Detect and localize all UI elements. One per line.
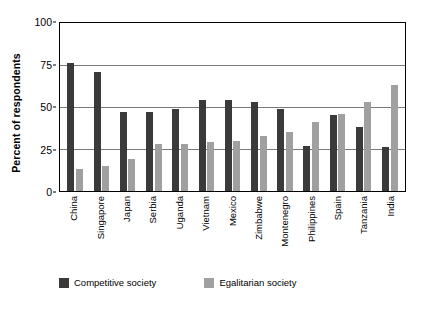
bar <box>172 109 179 191</box>
bar <box>225 100 232 191</box>
y-axis-tick-label: 0 <box>46 187 52 197</box>
bar-group <box>351 23 377 191</box>
x-axis-tick-label-text: Montenegro <box>280 196 290 247</box>
bar <box>364 102 371 191</box>
bar <box>102 166 109 191</box>
x-axis-tick-label: Japan <box>114 192 140 254</box>
legend-item[interactable]: Competitive society <box>59 277 156 288</box>
x-axis-tick-label-text: India <box>386 196 396 217</box>
bar <box>67 63 74 191</box>
x-axis-tick-label-text: Tanzania <box>359 196 369 234</box>
y-axis-title: Percent of respondents <box>8 28 24 198</box>
x-axis-tick-label: India <box>378 192 404 254</box>
x-axis-tick-label: Philippines <box>299 192 325 254</box>
x-axis-tick-label: Tanzania <box>351 192 377 254</box>
x-axis-tick-label: Serbia <box>140 192 166 254</box>
x-axis-tick-label: Vietnam <box>193 192 219 254</box>
x-axis-tick-label-text: Philippines <box>307 196 317 242</box>
bar <box>382 147 389 191</box>
x-axis-tick-label: Uganda <box>167 192 193 254</box>
x-axis-tick-label-text: Serbia <box>148 196 158 223</box>
bar <box>181 144 188 191</box>
x-axis-tick-label-text: Singapore <box>96 196 106 239</box>
y-axis-tick-label: 50 <box>40 102 52 112</box>
bar-group <box>193 23 219 191</box>
bar-group <box>246 23 272 191</box>
x-axis-tick-label-text: Japan <box>122 196 132 222</box>
bar <box>120 112 127 191</box>
x-axis-tick-label: China <box>61 192 87 254</box>
chart-legend: Competitive societyEgalitarian society <box>59 277 406 288</box>
bar <box>312 122 319 191</box>
bar <box>155 144 162 191</box>
bar-group <box>167 23 193 191</box>
bar-chart-figure: Percent of respondents 0255075100 ChinaS… <box>0 0 428 317</box>
bar <box>356 127 363 191</box>
y-axis-tick-mark <box>53 64 56 65</box>
bar <box>330 115 337 191</box>
bar-group <box>324 23 350 191</box>
bar <box>94 72 101 191</box>
y-axis-tick-label: 100 <box>34 17 52 27</box>
y-axis-tick-label: 25 <box>40 145 52 155</box>
y-axis-tick-mark <box>53 107 56 108</box>
bar <box>128 159 135 191</box>
bar <box>251 102 258 191</box>
bar-group <box>114 23 140 191</box>
bar <box>233 141 240 191</box>
bar-group <box>377 23 403 191</box>
y-axis-title-text: Percent of respondents <box>10 53 22 172</box>
legend-item[interactable]: Egalitarian society <box>204 277 296 288</box>
x-axis-tick-label: Singapore <box>87 192 113 254</box>
legend-label: Competitive society <box>74 277 156 288</box>
x-axis-tick-label: Montenegro <box>272 192 298 254</box>
bar <box>199 100 206 191</box>
x-axis-tick-label-text: Zimbabwe <box>254 196 264 240</box>
bar-group <box>88 23 114 191</box>
x-axis-tick-label-text: Vietnam <box>201 196 211 231</box>
bar <box>146 112 153 191</box>
bar-groups <box>60 23 405 191</box>
bar-group <box>272 23 298 191</box>
y-axis-tick-mark <box>53 22 56 23</box>
y-axis-tick-label: 75 <box>40 60 52 70</box>
bar <box>76 169 83 191</box>
plot-area <box>59 22 406 192</box>
y-axis-tick-mark <box>53 149 56 150</box>
legend-swatch-icon <box>59 278 69 288</box>
x-axis-tick-label: Zimbabwe <box>246 192 272 254</box>
bar-group <box>298 23 324 191</box>
bar-group <box>62 23 88 191</box>
x-axis-tick-label-text: China <box>69 196 79 221</box>
bar <box>207 142 214 191</box>
bar <box>303 146 310 191</box>
bar-group <box>219 23 245 191</box>
x-axis-tick-labels: ChinaSingaporeJapanSerbiaUgandaVietnamMe… <box>59 192 406 254</box>
bar <box>260 136 267 191</box>
bar <box>286 132 293 191</box>
bar <box>391 85 398 191</box>
y-axis-tick-labels: 0255075100 <box>24 22 56 192</box>
x-axis-tick-label: Mexico <box>219 192 245 254</box>
legend-label: Egalitarian society <box>219 277 296 288</box>
x-axis-tick-label-text: Uganda <box>175 196 185 229</box>
x-axis-tick-label-text: Mexico <box>228 196 238 226</box>
y-axis-tick-mark <box>53 192 56 193</box>
bar <box>338 114 345 191</box>
bar-group <box>141 23 167 191</box>
legend-swatch-icon <box>204 278 214 288</box>
bar <box>277 109 284 191</box>
x-axis-tick-label: Spain <box>325 192 351 254</box>
x-axis-tick-label-text: Spain <box>333 196 343 220</box>
